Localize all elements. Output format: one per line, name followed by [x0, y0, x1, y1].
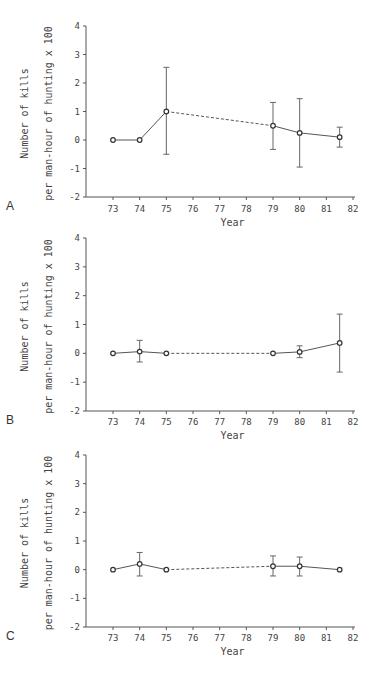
- x-tick-label: 76: [188, 633, 199, 643]
- chart-panel-c: -2-10123473747576777879808182YearNumber …: [6, 450, 358, 657]
- x-tick-label: 80: [294, 204, 305, 214]
- x-tick-label: 81: [321, 633, 332, 643]
- x-tick-label: 76: [188, 417, 199, 427]
- panel-letter: B: [6, 413, 14, 427]
- y-tick-label: 1: [75, 536, 80, 546]
- data-point: [111, 351, 116, 356]
- x-tick-label: 78: [241, 633, 252, 643]
- x-tick-label: 80: [294, 417, 305, 427]
- line-segment: [113, 564, 140, 570]
- line-segment: [140, 112, 167, 141]
- x-tick-label: 82: [348, 204, 359, 214]
- data-point: [337, 341, 342, 346]
- x-tick-label: 75: [161, 633, 172, 643]
- x-tick-label: 74: [134, 417, 145, 427]
- line-segment: [273, 126, 300, 133]
- x-axis-label: Year: [220, 217, 244, 228]
- x-tick-label: 82: [348, 417, 359, 427]
- y-axis-label-line2: per man-hour of hunting x 100: [43, 239, 54, 414]
- data-point: [111, 567, 116, 572]
- x-tick-label: 79: [268, 417, 279, 427]
- x-tick-label: 78: [241, 204, 252, 214]
- data-point: [271, 564, 276, 569]
- data-point: [271, 351, 276, 356]
- data-point: [271, 123, 276, 128]
- y-tick-label: 2: [75, 507, 80, 517]
- x-tick-label: 76: [188, 204, 199, 214]
- y-axis-label-line1: Number of kills: [19, 68, 30, 158]
- y-tick-label: 2: [75, 78, 80, 88]
- line-segment: [300, 133, 340, 137]
- y-tick-label: 4: [75, 450, 80, 460]
- y-axis-label-line1: Number of kills: [19, 498, 30, 588]
- x-axis-label: Year: [220, 646, 244, 657]
- line-segment: [140, 564, 167, 570]
- data-point: [111, 138, 116, 143]
- y-tick-label: -2: [69, 406, 80, 416]
- y-tick-label: -2: [69, 192, 80, 202]
- x-tick-label: 75: [161, 204, 172, 214]
- x-tick-label: 77: [214, 417, 225, 427]
- x-tick-label: 81: [321, 204, 332, 214]
- data-point: [297, 564, 302, 569]
- chart-panel-a: -2-10123473747576777879808182YearNumber …: [6, 21, 358, 228]
- data-point: [164, 567, 169, 572]
- x-tick-label: 80: [294, 633, 305, 643]
- line-segment: [300, 343, 340, 352]
- data-point: [337, 135, 342, 140]
- data-point: [137, 349, 142, 354]
- y-tick-label: 1: [75, 320, 80, 330]
- data-point: [164, 351, 169, 356]
- x-tick-label: 75: [161, 417, 172, 427]
- panel-letter: A: [6, 199, 14, 213]
- y-tick-label: -1: [69, 593, 80, 603]
- line-segment: [300, 566, 340, 569]
- data-point: [297, 350, 302, 355]
- x-tick-label: 79: [268, 204, 279, 214]
- data-point: [337, 567, 342, 572]
- dashed-connector: [166, 566, 273, 569]
- y-axis-label-line2: per man-hour of hunting x 100: [43, 26, 54, 201]
- x-tick-label: 79: [268, 633, 279, 643]
- data-point: [164, 109, 169, 114]
- y-tick-label: 0: [75, 135, 80, 145]
- y-tick-label: 3: [75, 50, 80, 60]
- x-tick-label: 73: [108, 633, 119, 643]
- y-tick-label: 0: [75, 565, 80, 575]
- x-tick-label: 74: [134, 204, 145, 214]
- figure: -2-10123473747576777879808182YearNumber …: [0, 0, 375, 673]
- panel-letter: C: [6, 629, 15, 643]
- data-point: [137, 562, 142, 567]
- y-tick-label: 0: [75, 348, 80, 358]
- x-tick-label: 73: [108, 204, 119, 214]
- y-tick-label: 4: [75, 21, 80, 31]
- line-segment: [140, 352, 167, 354]
- data-point: [297, 131, 302, 136]
- y-tick-label: 1: [75, 107, 80, 117]
- x-tick-label: 78: [241, 417, 252, 427]
- y-tick-label: 2: [75, 291, 80, 301]
- chart-panel-b: -2-10123473747576777879808182YearNumber …: [6, 233, 358, 441]
- line-segment: [273, 352, 300, 353]
- x-tick-label: 81: [321, 417, 332, 427]
- y-tick-label: 4: [75, 233, 80, 243]
- x-tick-label: 77: [214, 204, 225, 214]
- y-tick-label: -2: [69, 622, 80, 632]
- y-tick-label: -1: [69, 377, 80, 387]
- data-point: [137, 138, 142, 143]
- x-tick-label: 74: [134, 633, 145, 643]
- line-segment: [113, 352, 140, 354]
- x-tick-label: 82: [348, 633, 359, 643]
- y-axis-label-line2: per man-hour of hunting x 100: [43, 456, 54, 631]
- y-tick-label: 3: [75, 262, 80, 272]
- y-axis-label-line1: Number of kills: [19, 281, 30, 371]
- dashed-connector: [166, 112, 273, 126]
- y-tick-label: -1: [69, 164, 80, 174]
- x-tick-label: 73: [108, 417, 119, 427]
- x-axis-label: Year: [220, 430, 244, 441]
- y-tick-label: 3: [75, 479, 80, 489]
- x-tick-label: 77: [214, 633, 225, 643]
